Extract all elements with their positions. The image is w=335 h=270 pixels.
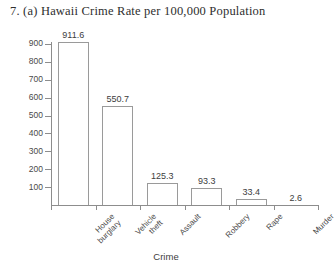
x-divider xyxy=(318,205,319,210)
y-tick-label-text: 700 xyxy=(15,75,43,84)
bar-value-label: 2.6 xyxy=(276,194,316,203)
y-tick-label: 500 xyxy=(12,111,43,120)
x-tick-label-robbery: Robbery xyxy=(224,212,252,240)
y-tick-800 xyxy=(45,62,52,63)
y-tick-label: 700 xyxy=(12,75,43,84)
y-tick-label: 800 xyxy=(12,57,43,66)
x-divider xyxy=(51,205,52,210)
bar-house-burglary xyxy=(58,42,89,205)
x-tick-label-line: Robbery xyxy=(224,212,252,240)
y-axis-line xyxy=(51,42,52,206)
bar-vehicle-theft xyxy=(102,106,133,205)
bar-value-label: 125.3 xyxy=(142,172,182,181)
y-tick-700 xyxy=(45,80,52,81)
x-tick-label-assault: Assault xyxy=(178,212,203,237)
y-tick-100 xyxy=(45,187,52,188)
x-tick-label-vehicle-theft: Vehicletheft xyxy=(133,212,164,243)
x-divider xyxy=(96,205,97,210)
y-tick-label: 400 xyxy=(12,129,43,138)
x-axis-title: Crime xyxy=(0,251,332,262)
y-tick-label-text: 400 xyxy=(15,129,43,138)
y-tick-label: 300 xyxy=(12,147,43,156)
y-tick-900 xyxy=(45,44,52,45)
x-divider xyxy=(140,205,141,210)
y-tick-label-text: 500 xyxy=(15,111,43,120)
x-tick-label-line: Rape xyxy=(265,212,285,232)
x-tick-label-line: Assault xyxy=(178,212,203,237)
x-divider xyxy=(229,205,230,210)
bar-robbery xyxy=(191,188,222,205)
bar-value-label: 911.6 xyxy=(53,31,93,40)
y-tick-400 xyxy=(45,133,52,134)
y-tick-label-text: 800 xyxy=(15,57,43,66)
y-tick-label-text: 600 xyxy=(15,93,43,102)
y-tick-200 xyxy=(45,169,52,170)
y-tick-300 xyxy=(45,151,52,152)
x-tick-label-murder: Murder xyxy=(311,212,335,236)
y-tick-label: 100 xyxy=(12,183,43,192)
y-tick-label-text: 900 xyxy=(15,39,43,48)
bar-value-label: 550.7 xyxy=(98,95,138,104)
y-tick-label-text: 100 xyxy=(15,183,43,192)
x-tick-label-rape: Rape xyxy=(265,212,285,232)
bar-murder xyxy=(280,205,311,207)
x-divider xyxy=(274,205,275,210)
y-tick-label: 900 xyxy=(12,39,43,48)
bar-rape xyxy=(236,199,267,205)
x-divider xyxy=(185,205,186,210)
x-tick-label-line: Murder xyxy=(311,212,335,236)
bar-assault xyxy=(147,183,178,205)
y-tick-label: 200 xyxy=(12,165,43,174)
y-tick-label: 600 xyxy=(12,93,43,102)
y-tick-label-text: 200 xyxy=(15,165,43,174)
y-tick-label-text: 300 xyxy=(15,147,43,156)
bar-value-label: 33.4 xyxy=(231,188,271,197)
y-tick-600 xyxy=(45,98,52,99)
x-tick-label-house-burglary: Houseburglary xyxy=(90,212,123,245)
y-tick-500 xyxy=(45,116,52,117)
bar-value-label: 93.3 xyxy=(187,177,227,186)
